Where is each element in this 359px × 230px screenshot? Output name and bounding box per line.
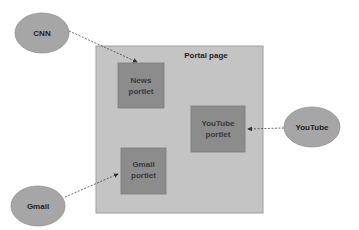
gmail-portlet-label-line1: Gmail — [132, 160, 154, 169]
gmail-portlet: Gmail portlet — [121, 148, 166, 194]
news-portlet-label-line1: News — [131, 76, 152, 85]
youtube-portlet-label-line2: portlet — [206, 130, 231, 139]
gmail-source-label: Gmail — [27, 202, 49, 211]
news-portlet: News portlet — [118, 63, 164, 108]
portal-page-label: Portal page — [184, 51, 228, 60]
gmail-source-node: Gmail — [11, 186, 65, 226]
news-portlet-label-line2: portlet — [129, 87, 154, 96]
youtube-portlet-box — [191, 106, 245, 152]
youtube-source-label: YouTube — [295, 123, 329, 132]
gmail-portlet-label-line2: portlet — [131, 171, 156, 180]
news-portlet-box — [118, 63, 164, 108]
youtube-portlet: YouTube portlet — [191, 106, 245, 152]
cnn-label: CNN — [33, 29, 51, 38]
youtube-portlet-label-line1: YouTube — [201, 119, 235, 128]
diagram-canvas: Portal page News portlet YouTube portlet… — [0, 0, 359, 230]
youtube-source-node: YouTube — [284, 107, 340, 147]
cnn-source-node: CNN — [15, 13, 69, 53]
